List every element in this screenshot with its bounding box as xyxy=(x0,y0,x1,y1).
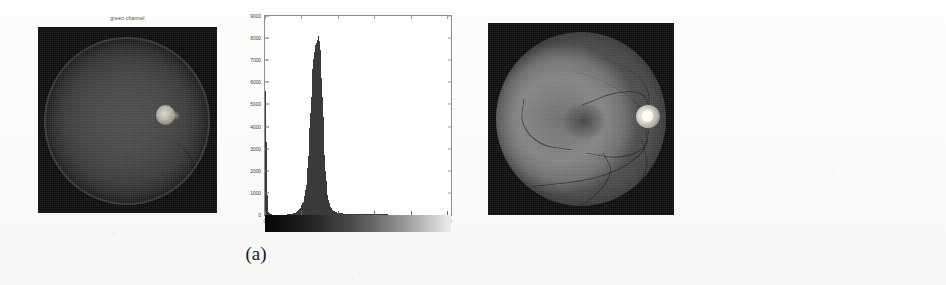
figure-container: green channel 01000200030004000500060007… xyxy=(0,0,946,285)
y-axis-tick-label: 2000 xyxy=(250,168,261,174)
y-axis-tick xyxy=(265,192,269,193)
y-axis-tick-right xyxy=(448,16,451,17)
y-axis-tick xyxy=(265,60,269,61)
y-axis-tick-right xyxy=(448,126,451,127)
panel-a: green channel 01000200030004000500060007… xyxy=(0,0,470,285)
y-axis-tick-right xyxy=(448,82,451,83)
image-noise-a xyxy=(38,27,217,213)
y-axis-tick-label: 1000 xyxy=(250,190,261,196)
y-axis-labels-a: 0100020003000400050006000700080009000 xyxy=(223,16,265,215)
x-axis-tick-top xyxy=(265,16,266,19)
y-axis-tick-label: 6000 xyxy=(250,79,261,85)
histogram-bars-a xyxy=(265,16,451,215)
image-noise-b xyxy=(488,23,674,215)
y-axis-tick xyxy=(265,126,269,127)
x-axis-tick-top xyxy=(374,16,375,19)
x-axis-tick-top xyxy=(411,16,412,19)
y-axis-tick-right xyxy=(448,148,451,149)
y-axis-tick-label: 0 xyxy=(258,212,261,218)
y-axis-tick-label: 9000 xyxy=(250,13,261,19)
x-axis-tick-top xyxy=(301,16,302,19)
y-axis-tick-right xyxy=(448,38,451,39)
fundus-image-a xyxy=(38,27,217,213)
histogram-a: 0100020003000400050006000700080009000 05… xyxy=(264,15,452,216)
subfigure-caption-a: (a) xyxy=(226,243,286,265)
y-axis-tick-label: 8000 xyxy=(250,35,261,41)
y-axis-tick xyxy=(265,170,269,171)
plot-area-a xyxy=(265,16,451,215)
y-axis-tick-right xyxy=(448,104,451,105)
y-axis-tick-right xyxy=(448,170,451,171)
y-axis-tick xyxy=(265,82,269,83)
y-axis-tick xyxy=(265,148,269,149)
y-axis-tick-label: 5000 xyxy=(250,101,261,107)
y-axis-tick xyxy=(265,104,269,105)
y-axis-tick-label: 4000 xyxy=(250,124,261,130)
colorbar-a xyxy=(265,215,451,232)
y-axis-tick xyxy=(265,38,269,39)
x-axis-tick-top xyxy=(338,16,339,19)
y-axis-tick-label: 3000 xyxy=(250,146,261,152)
image-title-a: green channel xyxy=(38,15,217,21)
x-axis-tick-top xyxy=(447,16,448,19)
y-axis-tick-label: 7000 xyxy=(250,57,261,63)
y-axis-tick-right xyxy=(448,192,451,193)
panel-b: 10002000300040005000 050100150200250 (b) xyxy=(470,0,946,285)
y-axis-tick-right xyxy=(448,60,451,61)
fundus-image-b xyxy=(488,23,674,215)
